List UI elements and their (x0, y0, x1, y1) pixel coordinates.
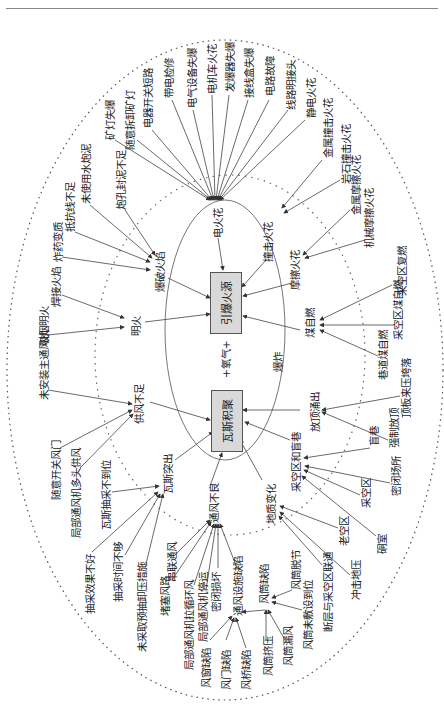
leaf: 随意拆卸矿灯 (124, 90, 136, 150)
leaf: 瓦斯抽采不到位 (100, 460, 112, 530)
leaf: 采空区煤自燃 (392, 280, 404, 340)
gas-accumulation-label: 瓦斯积聚 (219, 399, 235, 443)
leaf: 接线盒失爆 (243, 48, 255, 98)
leaf: 堵塞风路 (159, 576, 171, 616)
leaf: 抽采效果不好 (84, 554, 96, 614)
leaf: 风筒漏风 (282, 626, 294, 666)
leaf: 老空区 (338, 516, 350, 546)
leaf: 机械摩擦火花 (363, 188, 375, 248)
leaf: 电机车火花 (206, 44, 218, 94)
oxygen-label: +氧气+ (220, 340, 232, 378)
leaf: 未采取预抽卸压措施 (136, 562, 148, 652)
node-facility-defect: 通风设施缺陷 (232, 556, 244, 616)
node-insufficient-air: 供风不足 (133, 384, 145, 424)
leaf: 强制放顶 (388, 408, 400, 448)
leaf: 线路明接头 (285, 60, 297, 110)
node-electric-spark: 电火花 (212, 208, 224, 238)
leaf: 局部通风机拉循环风 (183, 580, 195, 670)
leaf: 风门缺陷 (220, 650, 232, 690)
node-coal-spontaneous: 煤自燃 (304, 308, 316, 338)
leaf: 风窗缺陷 (200, 648, 212, 688)
ignition-source-label: 引爆火源 (218, 281, 234, 325)
leaf: 风桥缺陷 (240, 650, 252, 690)
gas-accumulation-box: 瓦斯积聚 (211, 390, 243, 452)
node-open-fire: 明火 (130, 316, 142, 336)
leaf: 电气设备失爆 (186, 48, 198, 108)
leaf: 风筒脱节 (290, 550, 302, 590)
leaf: 炸药变质 (52, 222, 64, 262)
node-roof-gushing: 放顶涌出 (309, 392, 321, 432)
leaf: 采空区 (360, 478, 372, 508)
leaf: 未使用水炮泥 (80, 144, 92, 204)
leaf: 顶板来压垮落 (400, 358, 412, 418)
leaf: 未安装主通风机 (38, 330, 50, 400)
leaf: 抽采时间不够 (112, 542, 124, 602)
leaf: 断层与采空区联通 (322, 552, 334, 632)
leaf: 巷道煤自燃 (377, 330, 389, 380)
leaf: 密闭场所 (390, 456, 402, 496)
leaf: 金属撞击火花 (322, 98, 334, 158)
node-blasting-flame: 爆破火焰 (154, 252, 166, 292)
leaf: 静电火花 (305, 78, 317, 118)
node-friction-spark: 摩擦火花 (289, 250, 301, 290)
ignition-source-box: 引爆火源 (210, 272, 242, 334)
leaf: 电路故障 (264, 56, 276, 96)
fault-tree-diagram: 引爆火源 瓦斯积聚 +氧气+ 爆炸 电火花 爆破火焰 明火 撞击火花 摩擦火花 … (0, 0, 444, 716)
leaf: 随意开关风门 (50, 440, 62, 500)
node-goaf-blind: 采空区和盲巷 (290, 432, 302, 492)
leaf: 带电检修 (163, 58, 175, 98)
leaf: 冲击地压 (350, 560, 362, 600)
leaf: 电器开关短路 (142, 68, 154, 128)
node-geology-change: 地质变化 (265, 484, 277, 524)
leaf: 焊接火焰 (50, 267, 62, 307)
node-gas-outburst: 瓦斯突出 (162, 454, 174, 494)
leaf: 抵抗线不足 (64, 182, 76, 232)
leaf: 炮孔封泥不足 (115, 150, 127, 210)
explosion-label: 爆炸 (272, 352, 284, 372)
node-poor-ventilation: 通风不良 (208, 483, 220, 523)
leaf: 发爆器失爆 (224, 42, 236, 92)
leaf: 风筒未敷设到位 (302, 580, 314, 650)
leaf: 局部通风机多头供风 (70, 448, 82, 538)
leaf: 局部通风机停运 (197, 572, 209, 642)
leaf: 金属摩擦火花 (350, 155, 362, 215)
node-duct-defect: 风筒缺陷 (258, 564, 270, 604)
leaf: 密闭损坏 (210, 572, 222, 612)
leaf: 矿灯失爆 (104, 100, 116, 140)
leaf: 风筒挤压 (262, 636, 274, 676)
node-impact-spark: 撞击火花 (262, 222, 274, 262)
leaf: 硐室 (376, 534, 388, 554)
leaf: 盲巷 (368, 426, 380, 446)
